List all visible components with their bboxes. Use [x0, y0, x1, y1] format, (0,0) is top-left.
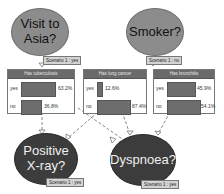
node-label: Positive [23, 143, 69, 158]
probability-value: 45.9% [197, 85, 211, 91]
node-visit-asia[interactable]: Visit toAsia? [11, 8, 69, 56]
arrowhead-icon [155, 131, 161, 135]
node-dyspnoea[interactable]: Dyspnoea? [110, 134, 176, 186]
monitor-row-yes: yes 63.2% [8, 79, 74, 97]
node-label: Visit to [21, 16, 60, 31]
monitor-lung-cancer[interactable]: Has lung cancer yes 12.6% no 87.4% [83, 69, 147, 114]
probability-bar [167, 82, 196, 97]
probability-bar [97, 82, 103, 97]
monitor-row-yes: yes 45.9% [154, 79, 214, 97]
probability-bar [21, 100, 42, 115]
monitor-bronchitis[interactable]: Has bronchitis yes 45.9% no 54.1% [153, 69, 215, 114]
monitor-row-yes: yes 12.6% [84, 79, 146, 97]
state-label: no [156, 103, 162, 109]
probability-value: 54.1% [201, 103, 215, 109]
state-label: no [10, 103, 16, 109]
scenario-badge-xray: Scenario 1 : yes [46, 178, 84, 187]
state-label: no [86, 103, 92, 109]
probability-bar [167, 100, 201, 115]
monitor-row-no: no 36.8% [8, 97, 74, 115]
monitor-title: Has bronchitis [154, 70, 214, 79]
node-label: X-ray? [27, 158, 65, 173]
state-label: yes [156, 85, 164, 91]
probability-value: 87.4% [132, 103, 146, 109]
node-label: Asia? [24, 31, 57, 46]
state-label: yes [10, 85, 18, 91]
scenario-badge-smoker: Scenario 1 : no [146, 56, 182, 65]
monitor-row-no: no 87.4% [84, 97, 146, 115]
arrowhead-icon [110, 137, 116, 143]
node-label: Smoker? [129, 25, 181, 40]
probability-value: 63.2% [58, 85, 72, 91]
probability-value: 12.6% [105, 85, 119, 91]
state-label: yes [86, 85, 94, 91]
edge-br-dysp [158, 112, 170, 134]
probability-value: 36.8% [44, 103, 58, 109]
node-label: Dyspnoea? [110, 153, 176, 168]
edge-lc-xray [68, 112, 98, 138]
scenario-badge-visit-asia: Scenario 1 : yes [43, 56, 81, 65]
probability-bar [97, 100, 131, 115]
probability-bar [21, 82, 56, 97]
monitor-tuberculosis[interactable]: Has tuberculosis yes 63.2% no 36.8% [7, 69, 75, 114]
monitor-title: Has lung cancer [84, 70, 146, 79]
scenario-badge-dyspnoea: Scenario 1 : yes [141, 180, 179, 189]
monitor-title: Has tuberculosis [8, 70, 74, 79]
node-smoker[interactable]: Smoker? [126, 8, 184, 56]
monitor-row-no: no 54.1% [154, 97, 214, 115]
